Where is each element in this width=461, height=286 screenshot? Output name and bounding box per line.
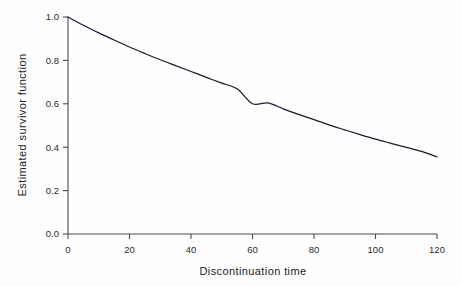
x-axis-ticks xyxy=(68,234,437,239)
y-tick-label: 0.6 xyxy=(46,98,59,109)
x-axis-title: Discontinuation time xyxy=(199,265,306,277)
x-tick-label: 0 xyxy=(65,244,70,255)
y-axis-tick-labels: 0.0 0.2 0.4 0.6 0.8 1.0 xyxy=(46,11,59,239)
y-axis-title: Estimated survivor function xyxy=(16,54,28,197)
y-tick-label: 0.0 xyxy=(46,228,59,239)
axes-group xyxy=(68,17,437,234)
x-tick-label: 60 xyxy=(247,244,258,255)
y-tick-label: 1.0 xyxy=(46,11,59,22)
x-tick-label: 120 xyxy=(429,244,445,255)
x-tick-label: 20 xyxy=(124,244,135,255)
survivor-function-chart: 0.0 0.2 0.4 0.6 0.8 1.0 0 20 40 60 80 10… xyxy=(0,0,461,286)
x-axis-tick-labels: 0 20 40 60 80 100 120 xyxy=(65,244,445,255)
y-tick-label: 0.8 xyxy=(46,55,59,66)
x-tick-label: 100 xyxy=(368,244,384,255)
y-tick-label: 0.4 xyxy=(46,142,59,153)
y-tick-label: 0.2 xyxy=(46,185,59,196)
survivor-curve xyxy=(68,17,437,157)
figure-container: 0.0 0.2 0.4 0.6 0.8 1.0 0 20 40 60 80 10… xyxy=(0,0,461,286)
x-tick-label: 80 xyxy=(309,244,320,255)
y-axis-ticks xyxy=(63,17,68,234)
x-tick-label: 40 xyxy=(186,244,197,255)
